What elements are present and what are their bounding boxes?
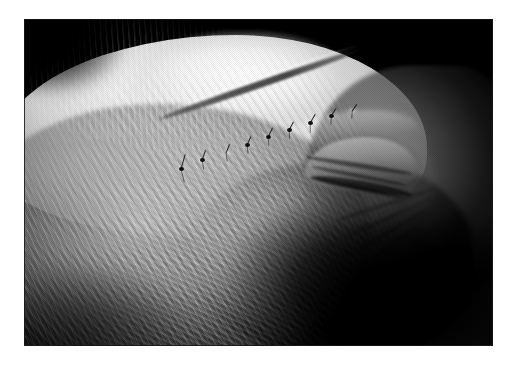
suture-thread — [288, 131, 290, 139]
hair-strands-shadow — [24, 19, 449, 346]
shadow-bottom-left — [24, 261, 193, 346]
hair-strands-lower — [25, 39, 407, 346]
suture-thread — [309, 124, 310, 133]
suture-knot — [266, 135, 271, 139]
page-canvas: Close-up grayscale lateral photograph of… — [0, 0, 518, 366]
eyelid-crease — [306, 154, 413, 176]
clinical-photograph — [24, 19, 493, 346]
surgical-incision-line — [154, 44, 369, 124]
photo-background — [24, 19, 493, 346]
crows-feet-wrinkle — [357, 209, 428, 252]
temple-region — [305, 65, 493, 294]
hair-wisps-topleft — [24, 19, 217, 146]
crows-feet-wrinkle — [367, 222, 422, 263]
crows-feet-wrinkle — [346, 196, 433, 238]
photo-image-area — [24, 19, 493, 346]
hair-mass — [24, 104, 371, 346]
shadow-top-left — [24, 19, 127, 97]
shadow-bottom-right — [221, 183, 493, 347]
suture-thread — [330, 117, 332, 125]
lash-line — [310, 172, 413, 198]
eyelid-crease — [311, 165, 408, 188]
vignette — [24, 19, 493, 346]
cheek-region — [193, 163, 474, 346]
eyelid-crease — [316, 176, 404, 200]
film-grain-texture — [24, 19, 493, 346]
suture-knot — [200, 158, 205, 162]
eye-socket — [296, 130, 437, 228]
hair-strands-mid — [24, 19, 446, 346]
suture-knot — [245, 143, 250, 147]
hair-strands-upper — [24, 19, 438, 346]
crows-feet-wrinkle — [335, 186, 435, 222]
incision-edge-highlight — [155, 40, 369, 117]
scalp-region — [24, 35, 427, 238]
scalp-hair-strands — [24, 19, 329, 188]
closed-eyelid — [305, 137, 418, 193]
halftone-texture — [24, 19, 493, 346]
